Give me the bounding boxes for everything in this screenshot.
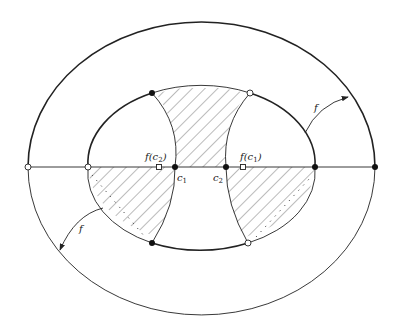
filled-point-top-left [149, 90, 155, 96]
label-fc1: f(c1) [239, 151, 262, 164]
label-c2: c2 [213, 172, 223, 185]
open-point-inner-left [85, 164, 91, 170]
filled-point-c2 [223, 164, 229, 170]
hatch-bottom-left [80, 167, 175, 246]
open-point-fc1 [241, 165, 246, 170]
hatch-top-center [152, 88, 250, 167]
inner-boundary-top-left [88, 93, 152, 167]
open-point-fc2 [157, 165, 162, 170]
open-point-bottom-right [245, 240, 251, 246]
filled-point-outer-right [372, 164, 378, 170]
open-point-top-right [247, 90, 253, 96]
label-f-bottom: f [78, 223, 85, 234]
outer-boundary-bottom [28, 167, 375, 315]
filled-point-bottom-left [149, 240, 155, 246]
filled-point-inner-right [312, 164, 318, 170]
hatch-bottom-right [226, 167, 320, 246]
label-c1: c1 [177, 172, 187, 185]
inner-boundary-bottom-mid [152, 243, 248, 250]
label-fc2: f(c2) [144, 151, 167, 164]
label-f-top: f [313, 102, 320, 113]
arrow-f-top [305, 97, 348, 133]
open-point-outer-left [25, 164, 31, 170]
annulus-diagram: f f f(c2) f(c1) c1 c2 [0, 0, 397, 330]
filled-point-c1 [172, 164, 178, 170]
